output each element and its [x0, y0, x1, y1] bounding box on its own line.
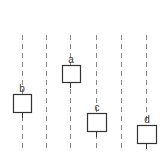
- box-label-d: d: [138, 115, 156, 125]
- box-d: [138, 126, 157, 144]
- box-label-b: b: [13, 84, 31, 94]
- diagram-svg: [0, 0, 167, 155]
- box-label-a: a: [62, 55, 80, 65]
- box-a: [63, 66, 81, 83]
- box-c: [88, 114, 107, 132]
- box-b: [14, 95, 32, 113]
- box-label-c: c: [88, 103, 106, 113]
- diagram-canvas: a b c d: [0, 0, 167, 155]
